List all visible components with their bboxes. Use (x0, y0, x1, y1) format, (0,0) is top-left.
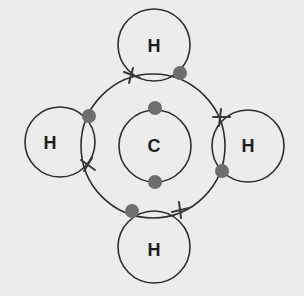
electron-dot-inner-bottom (148, 175, 162, 189)
atom-label-hydrogen-top: H (148, 36, 161, 56)
atom-label-hydrogen-right: H (242, 136, 255, 156)
atom-label-carbon: C (148, 136, 161, 156)
atom-label-hydrogen-bottom: H (148, 240, 161, 260)
electron-dot-bottom-bond (125, 204, 139, 218)
electron-dot-inner-top (148, 101, 162, 115)
electron-dot-right-bond (215, 164, 229, 178)
atom-label-hydrogen-left: H (44, 133, 57, 153)
electron-dot-top-bond (173, 66, 187, 80)
electron-dot-left-bond (82, 109, 96, 123)
methane-dot-cross-diagram: C H H H H (0, 0, 304, 296)
